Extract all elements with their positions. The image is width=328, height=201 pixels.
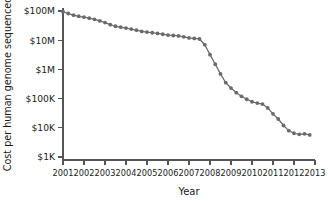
x-tick-label: 2005: [137, 168, 158, 178]
data-point: [192, 37, 196, 41]
data-point: [203, 43, 207, 47]
data-point: [261, 102, 265, 106]
data-point: [250, 100, 254, 104]
data-point: [282, 124, 286, 128]
data-point: [114, 24, 118, 28]
data-point: [208, 53, 212, 57]
y-tick-label: $100M: [24, 5, 55, 16]
data-point: [171, 34, 175, 38]
data-point: [108, 23, 112, 27]
data-point: [61, 10, 65, 14]
data-point: [297, 132, 301, 136]
y-tick-label: $1M: [35, 64, 55, 75]
x-tick-label: 2013: [305, 168, 326, 178]
data-point: [150, 31, 154, 35]
data-point: [98, 19, 102, 23]
data-point: [177, 34, 181, 38]
x-tick-label: 2011: [263, 168, 284, 178]
data-point: [229, 86, 233, 90]
x-tick-label: 2002: [74, 168, 95, 178]
series-markers: [61, 10, 312, 137]
data-point: [292, 131, 296, 135]
data-point: [93, 17, 97, 21]
data-point: [119, 25, 123, 29]
data-point: [124, 26, 128, 30]
data-point: [156, 32, 160, 36]
y-axis-title: Cost per human genome sequenced: [2, 0, 13, 171]
data-point: [166, 33, 170, 37]
data-point: [182, 35, 186, 39]
series-line-cost: [63, 12, 310, 135]
data-point: [276, 117, 280, 121]
data-series-group: [61, 10, 312, 137]
data-point: [308, 133, 312, 137]
x-tick-label: 2003: [95, 168, 116, 178]
data-point: [145, 30, 149, 34]
y-tick-label: $100K: [26, 93, 56, 104]
x-tick-label: 2009: [221, 168, 242, 178]
x-tick-label: 2008: [200, 168, 221, 178]
data-point: [271, 112, 275, 116]
data-point: [129, 27, 133, 31]
y-tick-label: $1K: [37, 151, 56, 162]
data-point: [219, 72, 223, 76]
data-point: [213, 62, 217, 66]
chart-plot-area: $100M$10M$1M$100K$10K$1K 200120022003200…: [0, 0, 328, 201]
x-tick-label: 2010: [242, 168, 263, 178]
y-tick-label: $10M: [30, 35, 56, 46]
data-point: [234, 91, 238, 95]
data-point: [72, 13, 76, 17]
data-point: [187, 36, 191, 40]
data-point: [87, 16, 91, 20]
data-point: [135, 28, 139, 32]
data-point: [266, 106, 270, 110]
data-point: [224, 81, 228, 85]
x-tick-label: 2007: [179, 168, 200, 178]
y-tick-marks: [58, 11, 63, 157]
data-point: [161, 32, 165, 36]
data-point: [255, 101, 259, 105]
x-axis-title: Year: [177, 186, 200, 197]
x-tick-marks: [63, 160, 315, 165]
data-point: [77, 14, 81, 18]
cost-per-genome-chart: $100M$10M$1M$100K$10K$1K 200120022003200…: [0, 0, 328, 201]
data-point: [140, 30, 144, 34]
x-tick-label: 2006: [158, 168, 179, 178]
y-tick-labels: $100M$10M$1M$100K$10K$1K: [24, 5, 56, 162]
x-axis-group: 2001200220032004200520062007200820092010…: [53, 160, 326, 178]
x-tick-label: 2001: [53, 168, 74, 178]
data-point: [82, 15, 86, 19]
y-tick-label: $10K: [31, 122, 56, 133]
x-tick-labels: 2001200220032004200520062007200820092010…: [53, 168, 326, 178]
data-point: [198, 37, 202, 41]
data-point: [240, 94, 244, 98]
x-tick-label: 2012: [284, 168, 305, 178]
y-axis-group: $100M$10M$1M$100K$10K$1K: [24, 5, 63, 162]
data-point: [245, 97, 249, 101]
data-point: [303, 132, 307, 136]
x-tick-label: 2004: [116, 168, 137, 178]
data-point: [103, 21, 107, 25]
data-point: [287, 129, 291, 133]
data-point: [66, 12, 70, 16]
